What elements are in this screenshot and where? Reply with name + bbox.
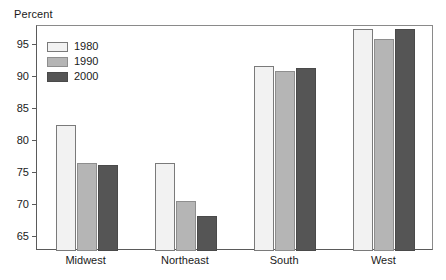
x-axis-label-northeast: Northeast bbox=[135, 254, 234, 266]
x-axis-label-south: South bbox=[235, 254, 334, 266]
legend-swatch-2000 bbox=[47, 72, 68, 82]
legend-item-2000: 2000 bbox=[47, 70, 98, 83]
bar-south-1990 bbox=[275, 71, 295, 251]
y-tick-label: 80 bbox=[0, 134, 29, 146]
y-tick-label: 95 bbox=[0, 38, 29, 50]
y-tick-label: 75 bbox=[0, 166, 29, 178]
x-axis-label-midwest: Midwest bbox=[36, 254, 135, 266]
bar-northeast-1990 bbox=[176, 201, 196, 251]
legend-label-1980: 1980 bbox=[74, 41, 98, 52]
bar-northeast-1980 bbox=[155, 163, 175, 251]
bar-south-1980 bbox=[254, 66, 274, 251]
bar-west-2000 bbox=[395, 29, 415, 251]
x-axis-label-west: West bbox=[334, 254, 433, 266]
y-axis-title: Percent bbox=[14, 8, 53, 20]
bar-midwest-1990 bbox=[77, 163, 97, 251]
legend-label-1990: 1990 bbox=[74, 56, 98, 67]
y-tick-label: 85 bbox=[0, 102, 29, 114]
y-tick-label: 90 bbox=[0, 70, 29, 82]
y-tick-label: 65 bbox=[0, 230, 29, 242]
bar-northeast-2000 bbox=[197, 216, 217, 251]
bar-west-1980 bbox=[353, 29, 373, 251]
legend-item-1980: 1980 bbox=[47, 40, 98, 53]
bar-west-1990 bbox=[374, 39, 394, 251]
bar-midwest-2000 bbox=[98, 165, 118, 251]
bar-midwest-1980 bbox=[56, 125, 76, 251]
legend-item-1990: 1990 bbox=[47, 55, 98, 68]
chart-legend: 198019902000 bbox=[47, 40, 98, 85]
legend-swatch-1990 bbox=[47, 57, 68, 67]
legend-swatch-1980 bbox=[47, 42, 68, 52]
bar-south-2000 bbox=[296, 68, 316, 251]
y-tick-label: 70 bbox=[0, 198, 29, 210]
bar-chart: Percent 65707580859095 MidwestNortheastS… bbox=[0, 0, 446, 280]
legend-label-2000: 2000 bbox=[74, 71, 98, 82]
